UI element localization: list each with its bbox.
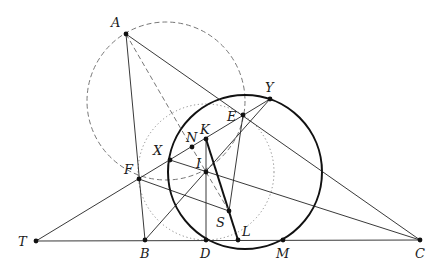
geometry-diagram: A B C T D L M F E Y X N K I S [0,0,443,272]
point-E [241,113,246,118]
point-M [281,238,286,243]
segment-AC [126,34,420,240]
point-A [124,32,129,37]
point-S [227,209,232,214]
label-X: X [152,143,163,158]
label-S: S [216,215,225,230]
label-K: K [199,122,211,137]
label-L: L [241,224,251,239]
point-C [418,238,423,243]
label-C: C [415,246,425,261]
label-E: E [226,109,237,124]
point-T [34,239,39,244]
label-Y: Y [265,80,275,95]
label-B: B [139,246,150,261]
segment-AB [126,34,145,240]
point-Y [268,97,273,102]
label-N: N [185,130,198,145]
labels: A B C T D L M F E Y X N K I S [18,15,425,261]
point-N [190,145,195,150]
label-I: I [195,156,202,171]
point-X [168,158,173,163]
point-I [204,170,209,175]
label-T: T [18,234,28,249]
label-M: M [275,246,290,261]
segment-BY [145,99,270,240]
point-D [204,238,209,243]
segment-FS [139,179,229,211]
label-F: F [123,162,134,177]
segment-AI [126,34,206,172]
point-B [143,238,148,243]
label-A: A [110,15,120,30]
segment-ES [229,115,243,211]
point-K [204,137,209,142]
points [34,32,423,244]
point-L [236,238,241,243]
segment-TC [36,240,420,241]
point-F [137,177,142,182]
label-D: D [199,246,211,261]
